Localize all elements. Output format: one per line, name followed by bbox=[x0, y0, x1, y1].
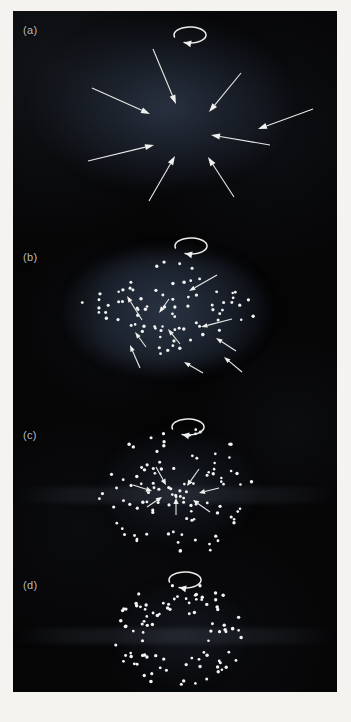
particle-dot bbox=[116, 318, 119, 321]
particle-dot bbox=[200, 598, 203, 601]
panel-d: (d) bbox=[13, 556, 337, 692]
particle-dot bbox=[137, 592, 140, 595]
particle-dot bbox=[115, 522, 118, 525]
particle-dot bbox=[154, 289, 157, 292]
particle-dot bbox=[235, 659, 238, 662]
particle-dot bbox=[151, 509, 154, 512]
particle-dot bbox=[127, 442, 130, 445]
particle-dot bbox=[237, 629, 240, 632]
particle-dot bbox=[236, 510, 239, 513]
particle-dot bbox=[180, 683, 183, 686]
particle-dot bbox=[119, 619, 123, 623]
particle-dot bbox=[218, 505, 221, 508]
particle-dot bbox=[215, 605, 219, 609]
particle-dot bbox=[136, 507, 139, 510]
particle-dot bbox=[230, 470, 233, 473]
particle-dot bbox=[190, 510, 193, 513]
particle-dot bbox=[194, 428, 197, 431]
particle-dot bbox=[122, 660, 125, 663]
infall-arrow bbox=[153, 49, 176, 104]
particle-dot bbox=[185, 663, 188, 666]
infall-arrow bbox=[173, 498, 178, 515]
particle-dot bbox=[201, 596, 204, 599]
particle-dot bbox=[214, 535, 217, 538]
particle-dot bbox=[195, 321, 198, 324]
particle-dot bbox=[121, 300, 124, 303]
particle-dot bbox=[221, 309, 224, 312]
particle-dot bbox=[162, 440, 165, 443]
particle-dot bbox=[121, 527, 124, 530]
particle-dot bbox=[157, 488, 160, 491]
particle-dot bbox=[232, 521, 235, 524]
particle-dot bbox=[124, 625, 128, 629]
particle-dot bbox=[211, 308, 214, 311]
particle-dot bbox=[142, 325, 145, 328]
particle-dot bbox=[149, 680, 153, 684]
particle-dot bbox=[180, 533, 183, 536]
particle-dot bbox=[225, 666, 228, 669]
particle-dot bbox=[158, 461, 161, 464]
particle-dot bbox=[175, 496, 178, 499]
particle-dot bbox=[152, 467, 155, 470]
particle-dot bbox=[171, 493, 174, 496]
particle-dot bbox=[114, 643, 117, 646]
particle-dot bbox=[141, 654, 144, 657]
particle-dot bbox=[195, 457, 198, 460]
particle-dot bbox=[145, 615, 148, 618]
particle-dot bbox=[146, 501, 149, 504]
particle-dot bbox=[140, 466, 143, 469]
particle-dot bbox=[228, 456, 231, 459]
infall-arrow bbox=[216, 338, 236, 351]
rotation-arrow bbox=[174, 27, 206, 47]
particle-dot bbox=[178, 262, 181, 265]
particle-dot bbox=[239, 483, 242, 486]
particle-dot bbox=[171, 584, 174, 587]
particle-dot bbox=[223, 628, 227, 632]
particle-dot bbox=[167, 532, 170, 535]
particle-dot bbox=[216, 665, 219, 668]
particle-dot bbox=[230, 515, 233, 518]
particle-dot bbox=[188, 602, 191, 605]
particle-dot bbox=[162, 260, 165, 263]
particle-dot bbox=[150, 436, 153, 439]
particle-dot bbox=[231, 627, 235, 631]
infall-arrow bbox=[184, 362, 203, 373]
rotation-arrow bbox=[175, 238, 207, 258]
particle-dot bbox=[214, 598, 217, 601]
particle-dot bbox=[172, 339, 175, 342]
particle-dot bbox=[217, 319, 220, 322]
particle-dot bbox=[193, 611, 196, 614]
particle-dot bbox=[144, 608, 147, 611]
panel-c: (c) bbox=[13, 391, 337, 556]
infall-arrow bbox=[130, 345, 140, 368]
particle-dot bbox=[169, 487, 172, 490]
particle-dot bbox=[115, 487, 118, 490]
particle-dot bbox=[124, 654, 127, 657]
particle-dot bbox=[171, 344, 174, 347]
particle-dot bbox=[98, 298, 101, 301]
particle-dot bbox=[110, 473, 113, 476]
particle-dot bbox=[189, 339, 192, 342]
particle-dot bbox=[216, 511, 219, 514]
particle-dot bbox=[232, 296, 235, 299]
particle-dot bbox=[238, 304, 241, 307]
panel-a-label: (a) bbox=[23, 24, 37, 36]
particle-dot bbox=[185, 490, 188, 493]
particle-dot bbox=[162, 602, 165, 605]
particle-dot bbox=[220, 480, 223, 483]
panel-b: (b) bbox=[13, 201, 337, 391]
particle-dot bbox=[162, 444, 165, 447]
particle-dot bbox=[154, 327, 157, 330]
particle-dot bbox=[130, 484, 133, 487]
particle-dot bbox=[207, 639, 210, 642]
particle-dot bbox=[194, 682, 197, 685]
particle-dot bbox=[205, 678, 208, 681]
particle-dot bbox=[150, 672, 153, 675]
particle-dot bbox=[121, 288, 124, 291]
particle-dot bbox=[137, 309, 140, 312]
particle-dot bbox=[130, 324, 133, 327]
particle-dot bbox=[217, 670, 220, 673]
particle-dot bbox=[105, 317, 108, 320]
particle-dot bbox=[144, 308, 147, 311]
particle-dot bbox=[214, 591, 217, 594]
